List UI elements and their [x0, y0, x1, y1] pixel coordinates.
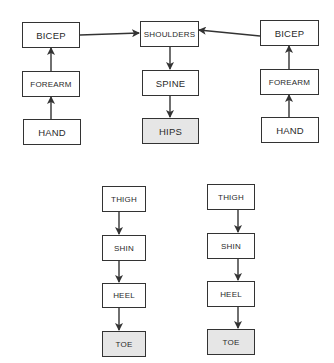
node-label: HIPS: [159, 126, 182, 137]
node-left-hand: HAND: [23, 119, 81, 145]
node-right-shin: SHIN: [207, 233, 255, 259]
node-label: SPINE: [156, 78, 186, 89]
node-label: TOE: [223, 338, 240, 347]
node-left-thigh: THIGH: [102, 186, 146, 212]
node-label: SHIN: [221, 242, 241, 251]
node-hips: HIPS: [142, 118, 199, 144]
node-left-toe: TOE: [102, 331, 146, 357]
node-spine: SPINE: [142, 70, 199, 96]
node-label: HEEL: [220, 290, 242, 299]
node-right-heel: HEEL: [207, 281, 255, 307]
node-label: HAND: [38, 127, 66, 138]
node-label: TOE: [116, 340, 133, 349]
node-label: HEEL: [113, 291, 135, 300]
node-right-thigh: THIGH: [207, 184, 255, 210]
connector-layer: [0, 0, 334, 363]
node-label: FOREARM: [269, 78, 310, 87]
node-label: HAND: [276, 125, 304, 136]
node-left-shin: SHIN: [102, 235, 146, 261]
arrow-right-bicep-to-shoulders: [199, 30, 260, 36]
node-left-heel: HEEL: [102, 283, 146, 308]
node-label: SHOULDERS: [144, 30, 196, 39]
arrow-left-bicep-to-shoulders: [80, 33, 139, 35]
node-left-forearm: FOREARM: [22, 71, 80, 97]
node-label: BICEP: [36, 30, 66, 41]
node-shoulders: SHOULDERS: [140, 21, 199, 47]
node-left-bicep: BICEP: [22, 22, 80, 48]
node-right-forearm: FOREARM: [260, 69, 319, 95]
node-label: SHIN: [114, 244, 134, 253]
node-label: FOREARM: [30, 80, 71, 89]
node-label: THIGH: [218, 193, 244, 202]
node-label: BICEP: [275, 28, 305, 39]
node-right-bicep: BICEP: [260, 20, 319, 46]
node-right-toe: TOE: [207, 329, 255, 355]
node-label: THIGH: [111, 195, 137, 204]
node-right-hand: HAND: [261, 117, 319, 143]
